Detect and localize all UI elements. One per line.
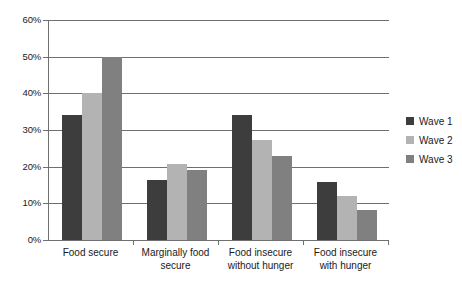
- bar: [317, 182, 337, 240]
- legend-item-label: Wave 3: [419, 154, 453, 165]
- bar-group: [49, 20, 134, 240]
- legend-item-label: Wave 2: [419, 135, 453, 146]
- y-axis-tick-label: 40%: [3, 88, 41, 98]
- bar-chart: 0%10%20%30%40%50%60% Food secureMarginal…: [0, 0, 462, 281]
- x-axis-label-line: with hunger: [291, 260, 400, 273]
- y-axis-tick-label: 50%: [3, 52, 41, 62]
- bar: [167, 164, 187, 240]
- legend-swatch-icon: [406, 117, 414, 125]
- bar: [62, 115, 82, 240]
- x-axis-tick-label: Food insecurewith hunger: [291, 247, 400, 272]
- bar: [147, 180, 167, 241]
- legend-item[interactable]: Wave 3: [406, 151, 453, 167]
- y-axis-tick-label: 30%: [3, 125, 41, 135]
- y-axis-tick-label: 20%: [3, 162, 41, 172]
- bar: [337, 196, 357, 240]
- x-axis-tick-mark: [133, 240, 134, 245]
- x-axis-tick-mark: [218, 240, 219, 245]
- plot-area: [48, 20, 389, 241]
- legend-swatch-icon: [406, 136, 414, 144]
- y-axis-tick-label: 0%: [3, 235, 41, 245]
- bar: [102, 57, 122, 240]
- bar: [82, 93, 102, 240]
- bar-group: [219, 20, 304, 240]
- y-axis-tick-label: 10%: [3, 198, 41, 208]
- x-axis-tick-mark: [388, 240, 389, 245]
- legend-item[interactable]: Wave 2: [406, 132, 453, 148]
- bar: [232, 115, 252, 240]
- x-axis-tick-mark: [303, 240, 304, 245]
- legend-item[interactable]: Wave 1: [406, 113, 453, 129]
- legend-swatch-icon: [406, 155, 414, 163]
- bar: [187, 170, 207, 240]
- chart-legend: Wave 1Wave 2Wave 3: [406, 113, 453, 170]
- bar-group: [304, 20, 389, 240]
- bar-group: [134, 20, 219, 240]
- x-axis-label-line: Food insecure: [291, 247, 400, 260]
- y-axis-tick-label: 60%: [3, 15, 41, 25]
- legend-item-label: Wave 1: [419, 116, 453, 127]
- bar: [272, 156, 292, 240]
- bar: [252, 140, 272, 240]
- bar: [357, 210, 377, 240]
